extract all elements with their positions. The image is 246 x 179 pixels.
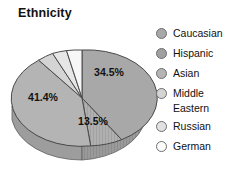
legend-swatch-circle-icon: [156, 121, 167, 132]
legend-item-german[interactable]: German: [156, 139, 246, 156]
pie-svg: 34.5% 13.5% 41.4%: [6, 24, 158, 176]
pie-chart-figure: Ethnicity: [0, 0, 246, 179]
legend-item-russian[interactable]: Russian: [156, 119, 246, 136]
pie-label-hispanic: 13.5%: [78, 115, 108, 127]
legend-item-asian[interactable]: Asian: [156, 66, 246, 83]
legend-swatch-circle-icon: [156, 141, 167, 152]
legend-item-caucasian[interactable]: Caucasian: [156, 26, 246, 43]
legend-item-label: German: [173, 139, 211, 154]
legend-item-label: Caucasian: [173, 26, 223, 41]
legend-item-label: Hispanic: [173, 46, 213, 61]
pie-label-caucasian: 34.5%: [94, 66, 124, 78]
legend-item-middle-eastern[interactable]: Middle Eastern: [156, 86, 246, 116]
pie-plot-area: 34.5% 13.5% 41.4%: [6, 24, 158, 176]
legend-swatch-circle-icon: [156, 28, 167, 39]
legend-item-label: Russian: [173, 119, 211, 134]
legend-swatch-circle-icon: [156, 68, 167, 79]
legend: Caucasian Hispanic Asian Middle Eastern …: [156, 26, 246, 159]
legend-swatch-circle-icon: [156, 48, 167, 59]
legend-item-hispanic[interactable]: Hispanic: [156, 46, 246, 63]
pie-label-asian: 41.4%: [28, 91, 58, 103]
legend-swatch-circle-icon: [156, 88, 167, 99]
legend-item-label: Asian: [173, 66, 199, 81]
page-title: Ethnicity: [18, 6, 72, 20]
legend-item-label: Middle Eastern: [173, 86, 209, 116]
